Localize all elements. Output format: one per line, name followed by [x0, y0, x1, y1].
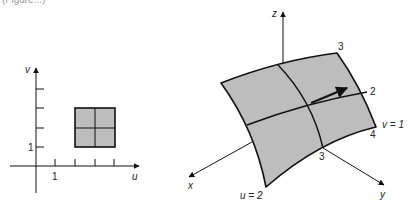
- x-axis-label: x: [187, 180, 194, 191]
- u-4-label: 4: [370, 129, 376, 140]
- surface-3d-plot: z x y 3 2 4 3 v = 1 u = 2: [187, 8, 404, 201]
- u-ticks: [55, 159, 114, 166]
- v-equals-1-label: v = 1: [382, 119, 404, 130]
- u-axis-label: u: [132, 171, 138, 182]
- u-equals-2-label: u = 2: [240, 190, 263, 201]
- z-axis-label: z: [271, 8, 277, 19]
- u-3-bottom-label: 3: [319, 151, 325, 162]
- v-axis-label: v: [25, 64, 31, 75]
- figure-canvas: v u 1 1 z x y 3 2 4 3 v = 1 u = 2: [0, 0, 411, 214]
- uv-plane-plot: v u 1 1: [10, 64, 139, 193]
- v-ticks: [36, 89, 44, 147]
- u-tick-label: 1: [52, 171, 58, 182]
- surface-patch: [221, 53, 376, 187]
- v-tick-label: 1: [28, 142, 34, 153]
- x-axis: [189, 142, 252, 177]
- v-2-label: 2: [370, 86, 376, 97]
- y-axis-label: y: [379, 189, 386, 200]
- y-axis: [323, 148, 384, 185]
- u-3-top-label: 3: [338, 41, 344, 52]
